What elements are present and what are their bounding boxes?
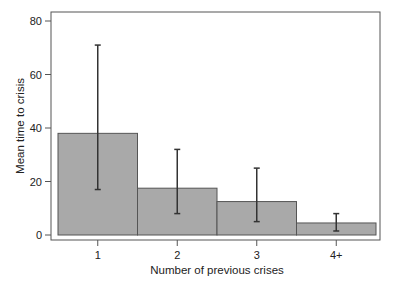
x-tick-label: 1 bbox=[95, 249, 101, 261]
y-axis-label: Mean time to crisis bbox=[14, 78, 26, 174]
y-tick-label: 40 bbox=[30, 122, 42, 134]
y-tick-label: 0 bbox=[36, 229, 42, 241]
x-tick-label: 4+ bbox=[330, 249, 343, 261]
y-tick-label: 20 bbox=[30, 176, 42, 188]
x-tick-label: 3 bbox=[254, 249, 260, 261]
x-axis: 1234+ bbox=[95, 240, 343, 261]
y-tick-label: 60 bbox=[30, 69, 42, 81]
x-tick-label: 2 bbox=[174, 249, 180, 261]
x-axis-label: Number of previous crises bbox=[150, 264, 284, 276]
bar-chart: 020406080 1234+ Number of previous crise… bbox=[0, 0, 393, 289]
y-tick-label: 80 bbox=[30, 15, 42, 27]
y-axis: 020406080 bbox=[30, 15, 51, 241]
